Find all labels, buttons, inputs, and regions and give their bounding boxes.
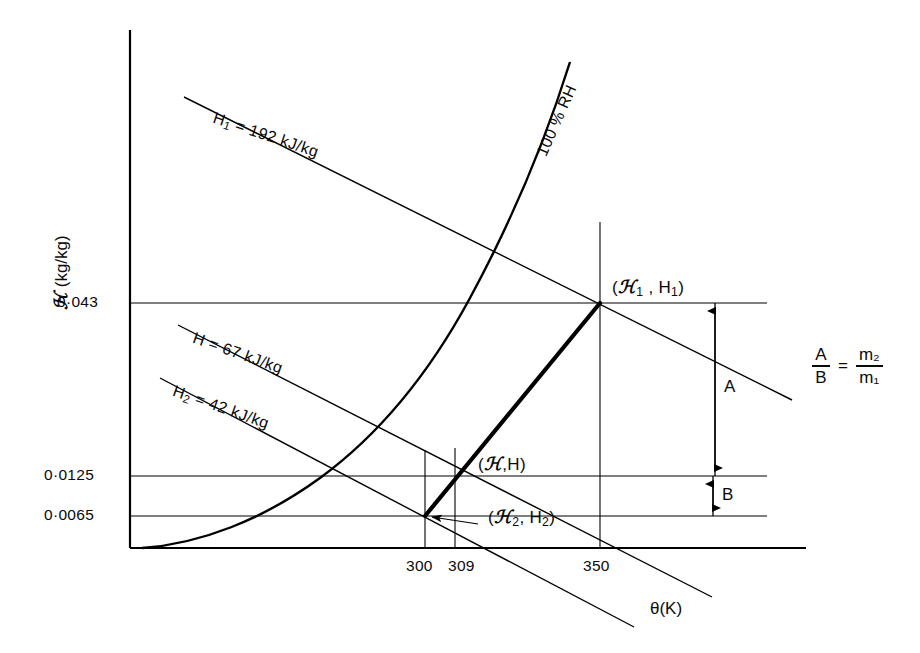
equals-sign: =: [838, 356, 848, 376]
state-1-humidity-symbol: ℋ: [618, 276, 636, 297]
state-1-close-paren: ): [678, 278, 684, 297]
ab-denominator: B: [812, 367, 829, 387]
mass-numerator: m₂: [856, 345, 883, 365]
x-tick-label-309: 309: [448, 558, 475, 574]
state-mix-rest: ,H): [502, 455, 526, 474]
y-tick-label-0043: 0·043: [57, 294, 98, 310]
x-axis-title: θ(K): [650, 600, 682, 618]
dimension-label-b: B: [722, 486, 733, 504]
lever-rule-equation: A B = m₂ m₁: [812, 345, 883, 387]
state-2-humidity-symbol: ℋ: [494, 506, 512, 527]
chart-canvas: [0, 0, 920, 653]
y-axis-units: (kg/kg): [52, 235, 71, 292]
state-2-separator: , H: [519, 508, 542, 527]
mass-fraction: m₂ m₁: [856, 345, 883, 387]
ab-fraction: A B: [812, 345, 830, 387]
state-1-point-label: (ℋ1 , H1): [612, 278, 684, 299]
state-2-point-label: (ℋ2, H2): [488, 508, 555, 529]
mass-denominator: m₁: [856, 367, 882, 387]
y-tick-label-00125: 0·0125: [44, 467, 94, 483]
state-mix-point-label: (ℋ,H): [478, 455, 526, 474]
state-mix-humidity-symbol: ℋ: [484, 453, 502, 474]
dimension-label-a: A: [724, 378, 735, 396]
state-1-separator: , H: [643, 278, 671, 297]
saturation-curve-100-rh: [142, 62, 570, 548]
psychrometric-chart-figure: ℋ (kg/kg) 0·043 0·0125 0·0065 300 309 35…: [0, 0, 920, 653]
ab-numerator: A: [812, 345, 829, 365]
state-2-close-paren: ): [549, 508, 555, 527]
x-tick-label-350: 350: [583, 558, 610, 574]
x-tick-label-300: 300: [406, 558, 433, 574]
y-tick-label-00065: 0·0065: [44, 507, 94, 523]
mixing-process-line: [425, 303, 600, 516]
